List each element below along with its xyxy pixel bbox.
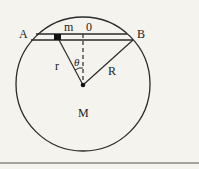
label-R: R: [108, 64, 116, 78]
label-M: M: [78, 106, 89, 120]
label-theta: θ: [74, 56, 80, 68]
center-dot: [81, 83, 86, 88]
circle-diagram: A B m 0 r R θ M: [0, 0, 199, 169]
line-R: [83, 40, 133, 85]
theta-arc: [75, 68, 83, 70]
label-r: r: [55, 59, 59, 73]
label-B: B: [137, 27, 145, 41]
label-A: A: [19, 27, 28, 41]
label-m: m: [64, 20, 74, 34]
label-O: 0: [86, 20, 92, 34]
mass-block: [54, 34, 61, 40]
